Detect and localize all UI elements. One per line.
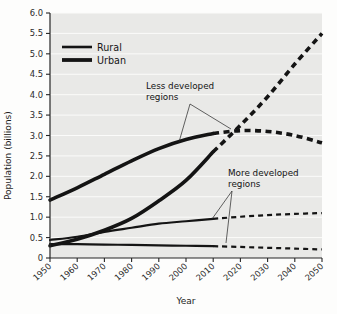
- y-tick-label: 3.0: [30, 131, 43, 141]
- annotation-more-developed-line2: regions: [228, 179, 261, 189]
- chart-svg: 00.51.01.52.02.53.03.54.04.55.05.56.0 19…: [0, 0, 337, 314]
- annotation-less-developed-line2: regions: [146, 92, 179, 102]
- y-tick-label: 4.0: [30, 90, 43, 100]
- y-tick-label: 0: [38, 253, 43, 263]
- y-axis-title: Population (billions): [3, 111, 13, 200]
- y-tick-label: 5.5: [30, 28, 43, 38]
- y-tick-label: 3.5: [30, 110, 43, 120]
- y-tick-label: 1.5: [30, 192, 43, 202]
- y-tick-label: 2.0: [30, 171, 43, 181]
- population-chart-figure: 00.51.01.52.02.53.03.54.04.55.05.56.0 19…: [0, 0, 337, 314]
- legend-label-rural: Rural: [97, 42, 122, 53]
- x-axis-title: Year: [175, 296, 195, 306]
- annotation-more-developed-line1: More developed: [228, 168, 299, 178]
- annotation-less-developed-line1: Less developed: [146, 81, 214, 91]
- y-tick-label: 0.5: [30, 233, 43, 243]
- legend-label-urban: Urban: [97, 55, 126, 66]
- y-tick-label: 5.0: [30, 49, 43, 59]
- y-tick-label: 4.5: [30, 69, 43, 79]
- y-tick-label: 1.0: [30, 212, 43, 222]
- y-tick-label: 2.5: [30, 151, 43, 161]
- y-tick-label: 6.0: [30, 8, 43, 18]
